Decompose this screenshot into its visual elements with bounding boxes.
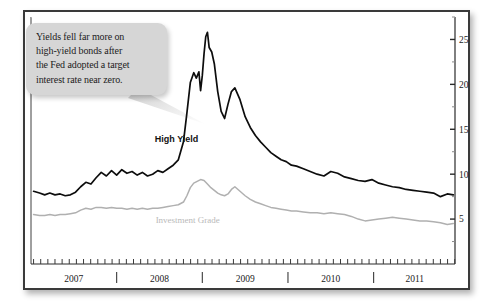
x-axis-tick-label: 2009 bbox=[236, 274, 255, 284]
callout-text: Yields fell far more on high-yield bonds… bbox=[36, 30, 158, 87]
y-axis-labels: 510152025 bbox=[459, 35, 469, 225]
y-axis-tick-label: 5 bbox=[459, 214, 464, 224]
series-label-high-yield: High Yield bbox=[155, 134, 199, 144]
x-axis-labels: 20072008200920102011 bbox=[64, 274, 424, 284]
y-axis-tick-label: 15 bbox=[459, 125, 469, 135]
x-axis-tick-label: 2007 bbox=[64, 274, 83, 284]
series-annotations: High YieldInvestment Grade bbox=[155, 134, 220, 225]
x-axis-tick-label: 2011 bbox=[405, 274, 424, 284]
x-axis-tick-label: 2010 bbox=[321, 274, 340, 284]
y-axis-ticks bbox=[450, 17, 455, 242]
x-axis-minor-ticks bbox=[34, 259, 455, 264]
y-axis-tick-label: 20 bbox=[459, 80, 469, 90]
series-label-investment-grade: Investment Grade bbox=[156, 215, 220, 225]
y-axis-tick-label: 25 bbox=[459, 35, 469, 45]
y-axis-tick-label: 10 bbox=[459, 170, 469, 180]
x-axis-tick-label: 2008 bbox=[150, 274, 169, 284]
callout-bubble: Yields fell far more on high-yield bonds… bbox=[26, 23, 167, 95]
